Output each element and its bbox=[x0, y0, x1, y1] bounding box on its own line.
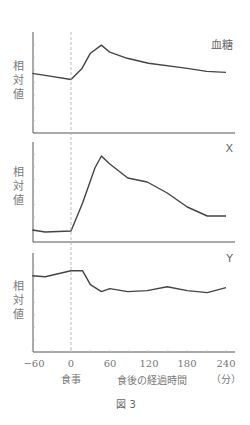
meal-label: 食事 bbox=[61, 373, 81, 385]
svg-text:相: 相 bbox=[13, 166, 24, 179]
panel-3-label: Y bbox=[225, 252, 233, 265]
panel-1-label: 血糖 bbox=[211, 38, 233, 52]
svg-text:対: 対 bbox=[13, 179, 24, 193]
figure-caption: 図 3 bbox=[116, 399, 136, 410]
svg-text:値: 値 bbox=[13, 88, 24, 101]
x-tick-labels: −60 0 60 120 180 240 bbox=[23, 358, 235, 369]
panel-2 bbox=[32, 142, 235, 242]
svg-text:対: 対 bbox=[13, 73, 24, 87]
panel-1-ylabel: 相 対 値 bbox=[13, 60, 24, 101]
svg-text:180: 180 bbox=[177, 358, 196, 369]
svg-text:60: 60 bbox=[104, 358, 117, 369]
svg-text:240: 240 bbox=[216, 358, 235, 369]
panel-2-ylabel: 相 対 値 bbox=[13, 166, 24, 207]
svg-text:値: 値 bbox=[13, 194, 24, 207]
x-axis-unit: （分） bbox=[211, 374, 241, 385]
data-line-3 bbox=[32, 271, 226, 293]
panel-1 bbox=[32, 32, 235, 133]
panel-3 bbox=[32, 253, 235, 352]
svg-text:対: 対 bbox=[13, 293, 24, 307]
svg-text:相: 相 bbox=[13, 280, 24, 293]
svg-text:120: 120 bbox=[139, 358, 158, 369]
svg-text:−60: −60 bbox=[23, 358, 44, 369]
panel-3-ylabel: 相 対 値 bbox=[13, 280, 24, 321]
x-axis-label: 食後の経過時間 bbox=[117, 374, 187, 386]
svg-text:0: 0 bbox=[68, 358, 74, 369]
svg-text:値: 値 bbox=[13, 308, 24, 321]
svg-text:相: 相 bbox=[13, 60, 24, 73]
panel-2-label: X bbox=[225, 142, 233, 155]
data-line-1 bbox=[32, 45, 226, 79]
data-line-2 bbox=[32, 156, 226, 232]
figure-3-chart: 血糖 X Y 相 対 値 相 対 値 相 対 値 −60 0 60 120 18… bbox=[0, 0, 250, 425]
